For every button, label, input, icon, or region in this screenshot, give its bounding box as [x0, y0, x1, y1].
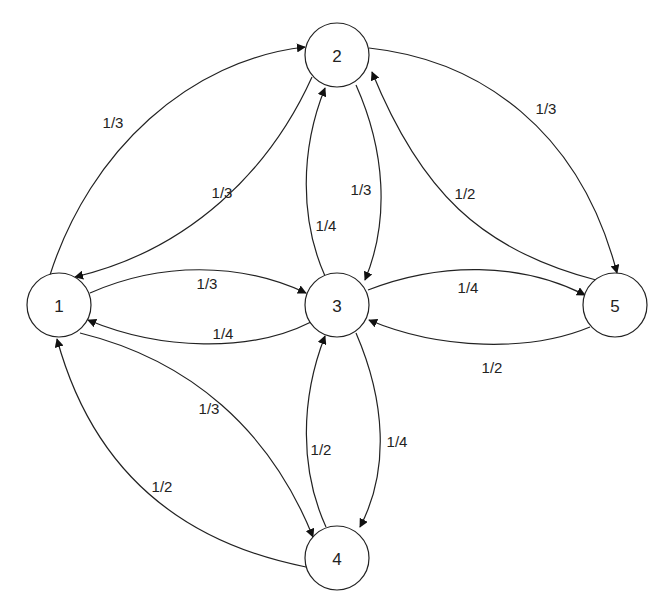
- edge-2-to-5: [369, 48, 617, 273]
- markov-chain-diagram: 1/3 1/3 1/3 1/4 1/3 1/2 1/3 1/4 1/3 1/2 …: [0, 0, 667, 611]
- edge-3-to-2: [306, 88, 325, 276]
- edge-1-to-4: [80, 333, 313, 537]
- node-3-label: 3: [332, 297, 341, 316]
- edge-label-4-to-1: 1/2: [152, 478, 173, 495]
- node-4-label: 4: [332, 550, 341, 569]
- edge-3-to-4: [356, 333, 380, 527]
- edge-1-to-2: [50, 47, 305, 275]
- edge-5-to-2: [372, 72, 596, 280]
- edge-label-3-to-5: 1/4: [458, 279, 479, 296]
- node-5: 5: [583, 273, 647, 337]
- edge-label-1-to-4: 1/3: [199, 400, 220, 417]
- node-3: 3: [305, 273, 369, 337]
- edge-4-to-1: [57, 339, 306, 567]
- edge-label-3-to-1: 1/4: [213, 325, 234, 342]
- edge-3-to-1: [88, 320, 311, 344]
- edge-label-4-to-3: 1/2: [311, 441, 332, 458]
- node-1-label: 1: [54, 297, 63, 316]
- node-2: 2: [305, 23, 369, 87]
- edge-label-2-to-1: 1/3: [212, 184, 233, 201]
- node-1: 1: [27, 273, 91, 337]
- edge-label-5-to-2: 1/2: [455, 185, 476, 202]
- edge-2-to-1: [75, 77, 312, 277]
- edge-label-2-to-3: 1/3: [351, 181, 372, 198]
- edge-label-5-to-3: 1/2: [482, 359, 503, 376]
- node-4: 4: [305, 526, 369, 590]
- edge-label-1-to-3: 1/3: [197, 275, 218, 292]
- edge-4-to-3: [306, 336, 326, 527]
- node-5-label: 5: [610, 297, 619, 316]
- edge-label-2-to-5: 1/3: [536, 100, 557, 117]
- node-2-label: 2: [332, 47, 341, 66]
- edge-label-1-to-2: 1/3: [103, 114, 124, 131]
- edge-label-3-to-2: 1/4: [316, 217, 337, 234]
- edge-5-to-3: [369, 320, 590, 344]
- edge-label-3-to-4: 1/4: [387, 433, 408, 450]
